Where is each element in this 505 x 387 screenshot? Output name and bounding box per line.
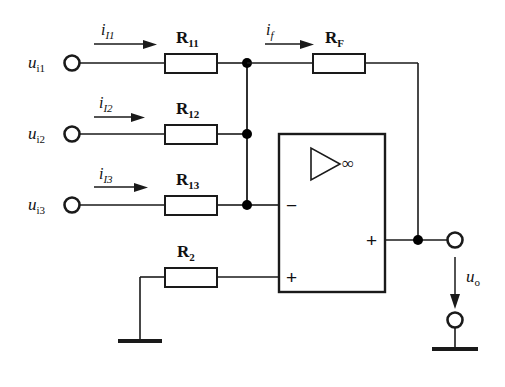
- junction-dot-output: [413, 235, 423, 245]
- input-terminal-1[interactable]: [65, 56, 80, 71]
- output-sign: +: [366, 231, 377, 250]
- noninverting-input-sign: +: [286, 268, 297, 287]
- output-terminal-top[interactable]: [448, 233, 463, 248]
- resistor-label-r11: R11: [176, 29, 199, 49]
- input-label-1: ui1: [28, 54, 45, 74]
- input-terminal-2[interactable]: [65, 127, 80, 142]
- infinite-gain-icon: ∞: [342, 155, 354, 172]
- summing-node-bus: [242, 58, 279, 210]
- junction-dot-3: [242, 200, 252, 210]
- output-voltage-label: uo: [466, 268, 480, 288]
- output-branch: [385, 233, 478, 350]
- input-label-2: ui2: [28, 125, 45, 145]
- resistor-label-r13: R13: [176, 171, 199, 191]
- resistor-label-rf: RF: [325, 29, 344, 49]
- resistor-r13-body: [165, 196, 217, 215]
- current-label-1: iI1: [101, 22, 115, 41]
- resistor-r2-body: [165, 268, 217, 287]
- input-branch-1: [65, 40, 248, 73]
- input-label-3: ui3: [28, 196, 45, 216]
- output-voltage-arrow-head: [450, 294, 460, 309]
- junction-dot-2: [242, 129, 252, 139]
- resistor-label-r12: R12: [176, 100, 199, 120]
- input-terminal-3[interactable]: [65, 198, 80, 213]
- bias-branch: [118, 268, 279, 341]
- output-terminal-bottom[interactable]: [448, 313, 463, 328]
- resistor-rf-body: [313, 54, 365, 73]
- current-arrow-f-head: [300, 40, 314, 49]
- resistor-r12-body: [165, 125, 217, 144]
- current-label-3: iI3: [99, 166, 113, 185]
- input-branch-3: [65, 183, 248, 215]
- current-arrow-2-head: [131, 113, 145, 122]
- resistor-label-r2: R2: [177, 243, 195, 263]
- current-label-2: iI2: [99, 95, 113, 114]
- current-arrow-1-head: [143, 40, 157, 49]
- inverting-input-sign: −: [286, 196, 297, 215]
- input-branch-2: [65, 113, 248, 144]
- current-arrow-3-head: [134, 183, 148, 192]
- resistor-r11-body: [165, 54, 217, 73]
- circuit-diagram: ui1 ui2 ui3 iI1 iI2 iI3 if R11 R12 R13 R…: [0, 0, 505, 387]
- current-label-feedback: if: [266, 22, 274, 41]
- schematic-canvas: [0, 0, 505, 387]
